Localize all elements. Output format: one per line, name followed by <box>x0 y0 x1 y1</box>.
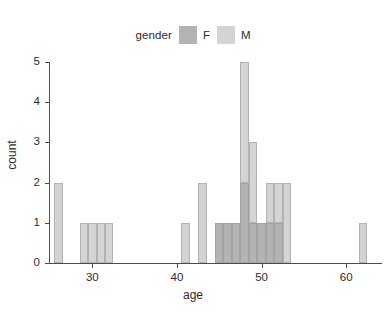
bar-segment <box>266 183 274 223</box>
x-tick-label: 50 <box>242 271 282 283</box>
bar-segment <box>257 223 265 263</box>
histogram-chart: gender F M age count 30405060012345 <box>0 0 386 320</box>
x-tick <box>262 264 263 268</box>
y-axis-line <box>49 62 50 264</box>
legend-swatch-f <box>179 26 197 44</box>
bar-segment <box>181 223 189 263</box>
y-tick-label: 0 <box>18 256 40 268</box>
y-axis-title: count <box>5 125 19 185</box>
legend-key-m[interactable]: M <box>217 26 251 44</box>
y-tick-label: 4 <box>18 95 40 107</box>
bar-segment <box>249 223 257 263</box>
bar-segment <box>266 223 274 263</box>
x-tick-label: 40 <box>157 271 197 283</box>
x-tick <box>346 264 347 268</box>
bar-segment <box>97 223 105 263</box>
legend-key-f[interactable]: F <box>179 26 210 44</box>
y-tick-label: 3 <box>18 135 40 147</box>
y-tick <box>45 263 49 264</box>
bar-segment <box>274 223 282 263</box>
y-tick <box>45 102 49 103</box>
bar-segment <box>249 142 257 222</box>
bar-segment <box>54 183 62 263</box>
y-tick <box>45 223 49 224</box>
bar-segment <box>80 223 88 263</box>
y-tick <box>45 142 49 143</box>
bar-segment <box>223 223 231 263</box>
x-tick-label: 30 <box>72 271 112 283</box>
plot-panel: 30405060012345 <box>50 62 380 263</box>
bar-segment <box>232 223 240 263</box>
x-axis-line <box>50 263 382 264</box>
legend-label-m: M <box>241 29 251 41</box>
bar-segment <box>198 183 206 263</box>
bar-segment <box>240 62 248 183</box>
bar-segment <box>105 223 113 263</box>
x-tick <box>92 264 93 268</box>
x-tick-label: 60 <box>326 271 366 283</box>
legend: gender F M <box>0 24 386 46</box>
bar-segment <box>215 223 223 263</box>
legend-title: gender <box>135 29 171 41</box>
x-axis-title: age <box>0 288 386 302</box>
bar-segment <box>88 223 96 263</box>
bar-segment <box>240 183 248 263</box>
bar-segment <box>274 183 282 223</box>
legend-swatch-m <box>217 26 235 44</box>
bar-segment <box>359 223 367 263</box>
y-tick-label: 5 <box>18 55 40 67</box>
bar-segment <box>283 183 291 263</box>
y-tick <box>45 62 49 63</box>
y-tick-label: 1 <box>18 216 40 228</box>
x-tick <box>177 264 178 268</box>
y-tick <box>45 183 49 184</box>
legend-label-f: F <box>203 29 210 41</box>
y-tick-label: 2 <box>18 176 40 188</box>
